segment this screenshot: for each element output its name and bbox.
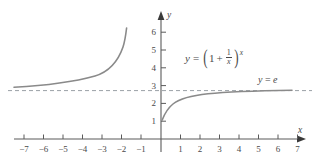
x-axis-label: x	[298, 126, 302, 136]
y-axis-arrow-icon	[158, 11, 165, 20]
y-axis-label: y	[167, 11, 171, 21]
y-tick-label: 1	[145, 117, 156, 126]
fraction-denominator: x	[226, 57, 232, 66]
y-tick-label: 3	[145, 81, 156, 90]
x-tick-label: −6	[39, 145, 49, 154]
equation-lhs: y	[185, 52, 190, 64]
asymptote-label-equals: =	[265, 74, 271, 85]
y-tick-label: 6	[145, 28, 156, 37]
x-tick-label: 1	[178, 145, 183, 154]
x-tick-label: −3	[97, 145, 107, 154]
equation-open-paren: (	[203, 49, 207, 66]
equation-one: 1	[209, 52, 215, 64]
asymptote-label: y = e	[258, 74, 278, 85]
x-tick-label: 3	[217, 145, 222, 154]
equation-fraction: 1 x	[226, 49, 232, 67]
equation-plus: +	[217, 52, 223, 64]
x-axis-arrow-icon	[297, 136, 306, 143]
curve-right-branch	[162, 90, 292, 120]
x-tick-label: 2	[198, 145, 203, 154]
equation-annotation: y = ( 1 + 1 x ) x	[185, 49, 243, 67]
x-tick-label: 4	[237, 145, 242, 154]
fraction-numerator: 1	[226, 49, 232, 57]
x-tick-label: −7	[19, 145, 29, 154]
equation-close-paren: )	[234, 49, 238, 66]
asymptote-label-e: e	[273, 74, 277, 85]
curve-left-branch	[14, 28, 127, 87]
y-tick-label: 5	[145, 46, 156, 55]
x-tick-label: −1	[136, 145, 146, 154]
x-tick-label: −5	[58, 145, 68, 154]
equation-equals: =	[193, 52, 199, 64]
y-tick-marks	[161, 32, 166, 121]
equation-exponent: x	[240, 48, 243, 57]
y-tick-label: 2	[145, 99, 156, 108]
x-tick-label: 5	[256, 145, 261, 154]
x-tick-label: 7	[295, 145, 300, 154]
x-tick-label: −4	[78, 145, 88, 154]
graph-figure: −7 −6 −5 −4 −3 −2 −1 1 2 3 4 5 6 7 1 2 3…	[0, 0, 315, 167]
asymptote-label-y: y	[258, 74, 262, 85]
x-tick-label: −2	[117, 145, 127, 154]
y-tick-label: 4	[145, 63, 156, 72]
x-tick-label: 6	[276, 145, 281, 154]
